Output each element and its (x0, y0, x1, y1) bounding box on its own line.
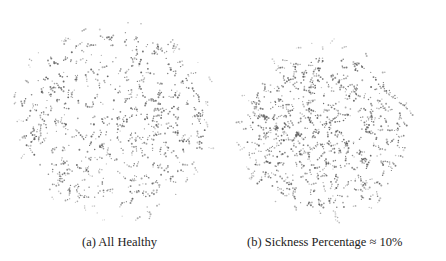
figure: (a) All Healthy (b) Sickness Percentage … (0, 0, 446, 230)
caption-a: (a) All Healthy (82, 235, 157, 250)
scatter-plot (0, 0, 446, 230)
cloud-b (236, 38, 414, 223)
cloud-a (13, 22, 214, 221)
caption-b: (b) Sickness Percentage ≈ 10% (247, 235, 402, 250)
